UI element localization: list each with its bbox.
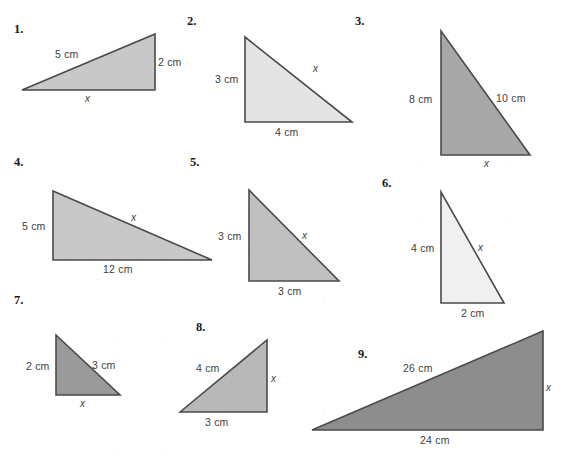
- side-label-8-vertical: x: [271, 373, 276, 384]
- side-label-9-base: 24 cm: [420, 434, 450, 446]
- triangle-figures: [0, 0, 564, 462]
- triangle-shape-2: [245, 37, 352, 122]
- triangle-shape-9: [312, 331, 543, 430]
- side-label-9-vertical: x: [546, 382, 551, 393]
- side-label-1-hypotenuse: 5 cm: [55, 48, 79, 60]
- side-label-1-base: x: [85, 93, 90, 104]
- side-label-8-hypotenuse: 4 cm: [196, 362, 220, 374]
- side-label-4-vertical: 5 cm: [22, 220, 46, 232]
- side-label-3-hypotenuse: 10 cm: [496, 92, 526, 104]
- side-label-2-base: 4 cm: [275, 126, 299, 138]
- worksheet-canvas: 1.2.3.4.5.6.7.8.9. 5 cm2 cmx3 cmx4 cm8 c…: [0, 0, 564, 462]
- side-label-1-vertical: 2 cm: [158, 56, 182, 68]
- side-label-5-hypotenuse: x: [302, 230, 307, 241]
- side-label-3-vertical: 8 cm: [409, 93, 433, 105]
- side-label-5-vertical: 3 cm: [218, 230, 242, 242]
- problem-number-4: 4.: [14, 155, 23, 170]
- triangle-shape-8: [180, 340, 267, 412]
- problem-number-8: 8.: [196, 320, 205, 335]
- triangle-shape-1: [22, 34, 155, 90]
- problem-number-9: 9.: [358, 347, 367, 362]
- side-label-7-vertical: 2 cm: [26, 360, 50, 372]
- triangle-shape-6: [441, 192, 504, 303]
- side-label-7-hypotenuse: 3 cm: [92, 359, 116, 371]
- side-label-5-base: 3 cm: [278, 285, 302, 297]
- problem-number-7: 7.: [14, 293, 23, 308]
- side-label-3-base: x: [484, 158, 489, 169]
- problem-number-6: 6.: [382, 176, 391, 191]
- side-label-6-hypotenuse: x: [478, 242, 483, 253]
- triangle-shape-4: [53, 191, 212, 260]
- side-label-6-vertical: 4 cm: [411, 242, 435, 254]
- side-label-4-base: 12 cm: [103, 263, 133, 275]
- triangle-shape-5: [249, 190, 339, 281]
- problem-number-5: 5.: [190, 155, 199, 170]
- problem-number-1: 1.: [14, 22, 23, 37]
- side-label-7-base: x: [80, 398, 85, 409]
- side-label-4-hypotenuse: x: [131, 212, 136, 223]
- side-label-6-base: 2 cm: [461, 307, 485, 319]
- problem-number-3: 3.: [355, 14, 364, 29]
- side-label-2-vertical: 3 cm: [215, 73, 239, 85]
- side-label-8-base: 3 cm: [205, 416, 229, 428]
- problem-number-2: 2.: [187, 14, 196, 29]
- side-label-2-hypotenuse: x: [313, 63, 318, 74]
- side-label-9-hypotenuse: 26 cm: [403, 362, 433, 374]
